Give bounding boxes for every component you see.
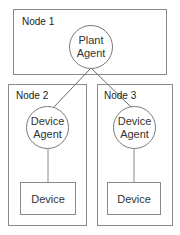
device-agent-circle-node-3: Device Agent	[113, 106, 156, 149]
device-agent-line1: Device	[118, 115, 152, 128]
device-agent-line1: Device	[31, 115, 65, 128]
node-1-label: Node 1	[22, 16, 54, 27]
device-box-node-3: Device	[107, 182, 161, 215]
device-agent-line2: Agent	[118, 128, 152, 141]
device-agent-line2: Agent	[31, 128, 65, 141]
plant-agent-line1: Plant	[77, 34, 106, 47]
plant-agent-circle: Plant Agent	[69, 25, 113, 69]
node-2-label: Node 2	[16, 90, 48, 101]
device-agent-circle-node-2: Device Agent	[26, 106, 69, 149]
device-box-node-2: Device	[20, 182, 76, 215]
plant-agent-line2: Agent	[77, 47, 106, 60]
node-3-label: Node 3	[104, 90, 136, 101]
